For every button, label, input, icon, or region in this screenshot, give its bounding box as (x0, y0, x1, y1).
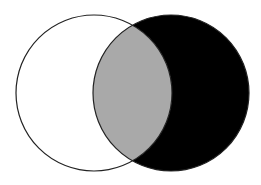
venn-diagram (0, 0, 261, 185)
